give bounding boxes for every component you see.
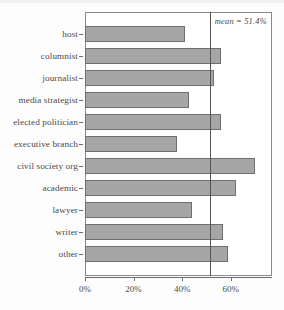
y-axis-label-host: host: [0, 26, 78, 42]
x-axis-tick-label-0%: 0%: [70, 284, 100, 294]
mean-reference-line: [210, 12, 211, 276]
y-axis-label-lawyer: lawyer: [0, 202, 78, 218]
y-axis-tick: [79, 210, 83, 211]
y-axis-tick: [79, 122, 83, 123]
bar-executive-branch: [85, 136, 177, 152]
y-axis-tick: [79, 78, 83, 79]
bar-other: [85, 246, 228, 262]
mean-annotation-label: mean = 51.4%: [215, 17, 267, 26]
y-axis-label-civil-society-org: civil society org: [0, 158, 78, 174]
y-axis-label-writer: writer: [0, 224, 78, 240]
y-axis-tick: [79, 144, 83, 145]
y-axis-label-executive-branch: executive branch: [0, 136, 78, 152]
x-axis-tick-40%: [182, 277, 183, 281]
bar-writer: [85, 224, 223, 240]
y-axis-label-elected-politician: elected politician: [0, 114, 78, 130]
bar-host: [85, 26, 185, 42]
x-axis-tick-0%: [85, 277, 86, 281]
x-axis-tick-20%: [134, 277, 135, 281]
x-axis-tick-label-20%: 20%: [119, 284, 149, 294]
y-axis-label-media-strategist: media strategist: [0, 92, 78, 108]
bar-lawyer: [85, 202, 192, 218]
y-axis-tick: [79, 232, 83, 233]
bar-columnist: [85, 48, 221, 64]
bar-elected-politician: [85, 114, 221, 130]
y-axis-label-columnist: columnist: [0, 48, 78, 64]
scan-artifact-strip: [0, 0, 284, 3]
x-axis-tick-label-40%: 40%: [167, 284, 197, 294]
bar-media-strategist: [85, 92, 189, 108]
y-axis-tick: [79, 254, 83, 255]
y-axis-tick: [79, 56, 83, 57]
y-axis-label-journalist: journalist: [0, 70, 78, 86]
y-axis-label-other: other: [0, 246, 78, 262]
x-axis-tick-label-60%: 60%: [216, 284, 246, 294]
x-axis-line: [85, 277, 272, 278]
y-axis-category-labels: hostcolumnistjournalistmedia strategiste…: [0, 26, 78, 270]
bar-journalist: [85, 70, 214, 86]
bar-civil-society-org: [85, 158, 255, 174]
bar-chart: hostcolumnistjournalistmedia strategiste…: [0, 0, 284, 310]
x-axis-tick-60%: [231, 277, 232, 281]
bars-layer: [85, 12, 272, 276]
y-axis-tick: [79, 188, 83, 189]
y-axis-label-academic: academic: [0, 180, 78, 196]
y-axis-tick: [79, 34, 83, 35]
y-axis-tick: [79, 166, 83, 167]
y-axis-tick: [79, 100, 83, 101]
bar-academic: [85, 180, 236, 196]
